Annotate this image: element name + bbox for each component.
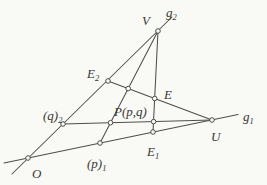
label-O-base: O: [32, 166, 42, 181]
label-E1-base: E: [146, 144, 155, 159]
paper-background: [0, 0, 267, 185]
point-U: [210, 118, 215, 123]
label-E: E: [163, 87, 172, 102]
label-P-base: P(p,q): [113, 104, 147, 119]
point-P: [108, 120, 113, 125]
label-E2-base: E: [86, 66, 95, 81]
label-q2-base: (q): [43, 108, 58, 123]
point-E1: [151, 130, 156, 135]
point-p1: [98, 141, 103, 146]
point-E: [152, 96, 157, 101]
label-E-base: E: [163, 87, 172, 102]
point-E2: [106, 79, 111, 84]
point-aux-Vp1-E2U: [126, 86, 131, 91]
point-O: [26, 156, 31, 161]
label-O: O: [32, 166, 42, 181]
label-U-base: U: [211, 129, 222, 144]
point-V: [156, 29, 161, 34]
figure-page: Vg2E2E(q)2P(p,q)g1UE1(p)1O: [0, 0, 267, 185]
label-p1-subscript: 1: [102, 163, 106, 173]
label-P: P(p,q): [113, 104, 147, 119]
label-g1-subscript: 1: [250, 116, 254, 126]
point-aux-VE1-q2U: [151, 119, 156, 124]
label-U: U: [211, 129, 222, 144]
label-E1-subscript: 1: [155, 151, 159, 161]
label-p1-base: (p): [87, 156, 102, 171]
geometry-figure: Vg2E2E(q)2P(p,q)g1UE1(p)1O: [0, 0, 267, 185]
